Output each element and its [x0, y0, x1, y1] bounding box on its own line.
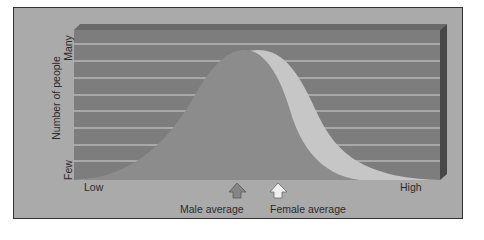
y-tick-many: Many	[62, 35, 74, 61]
female-average-label: Female average	[270, 203, 346, 215]
male-average-arrow	[229, 183, 246, 198]
x-tick-high: High	[400, 181, 422, 193]
x-tick-low: Low	[84, 181, 103, 193]
plot-top-wall	[74, 24, 447, 30]
female-average-arrow	[270, 183, 287, 198]
y-axis-label: Number of people	[50, 56, 62, 139]
male-average-label: Male average	[180, 203, 244, 215]
y-tick-few: Few	[62, 160, 74, 180]
plot-side-wall	[440, 24, 447, 180]
